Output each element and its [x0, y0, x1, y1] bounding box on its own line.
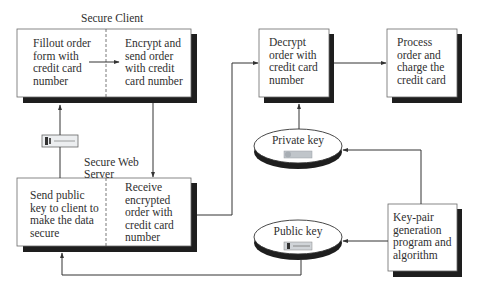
arrow-public-key-to-server [62, 253, 301, 275]
private-key-icon [284, 151, 312, 158]
send-public-key-text: Send public key to client to make the da… [30, 189, 99, 239]
arrow-keygen-to-private-key [343, 150, 421, 204]
decrypt-order-text: Decrypt order with credit card number [269, 36, 318, 86]
public-key-icon [284, 242, 312, 250]
arrow-server-to-decrypt [197, 63, 258, 215]
secure-web-server-label-line2: Server [84, 168, 114, 181]
receive-encrypted-text: Receive encrypted order with credit card… [125, 181, 174, 244]
private-key-label: Private key [254, 134, 342, 147]
public-key-in-transit-icon [42, 135, 78, 147]
public-key-label: Public key [254, 225, 342, 238]
process-order-text: Process order and charge the credit card [397, 36, 446, 86]
fillout-order-text: Fillout order form with credit card numb… [33, 37, 91, 87]
encrypt-send-text: Encrypt and send order with credit card … [125, 37, 183, 87]
key-pair-generation-text: Key-pair generation program and algorith… [393, 211, 451, 261]
secure-client-label: Secure Client [81, 12, 143, 25]
